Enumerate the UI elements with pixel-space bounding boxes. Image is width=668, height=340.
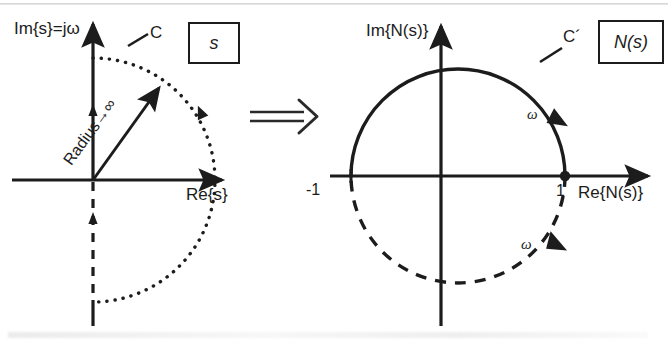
s-plane-box-label: s (188, 22, 240, 64)
right-contour-label: C´ (563, 28, 581, 45)
right-tick-label-one: 1 (556, 183, 565, 199)
right-contour-lower-dashed (351, 176, 565, 283)
transform-arrow-icon (250, 100, 317, 133)
omega-label-upper: ω (527, 107, 538, 122)
right-imaginary-axis-label: Im{N(s)} (366, 22, 428, 39)
diagram-vector-layer (0, 0, 668, 340)
right-panel-ns-plane (330, 26, 648, 326)
left-panel-s-plane (12, 24, 222, 326)
figure-canvas: Im{s}=jω Re{s} C Radius→∞ s Im{N(s)} Re{… (0, 0, 668, 340)
ns-plane-box-label: N(s) (598, 20, 664, 64)
right-contour-upper-solid (351, 69, 565, 176)
right-real-axis-label: Re{N(s)} (578, 184, 643, 201)
right-point-one-marker (560, 171, 570, 181)
left-real-axis-label: Re{s} (186, 186, 228, 203)
left-imaginary-axis-negative-arrowhead (88, 212, 97, 224)
omega-label-lower: ω (521, 237, 532, 252)
left-contour-label: C (150, 24, 162, 41)
right-contour-label-leader (540, 48, 562, 62)
left-imaginary-axis-label: Im{s}=jω (14, 20, 80, 37)
right-tick-label-minus-one: -1 (306, 182, 320, 198)
left-contour-label-leader (128, 34, 148, 46)
